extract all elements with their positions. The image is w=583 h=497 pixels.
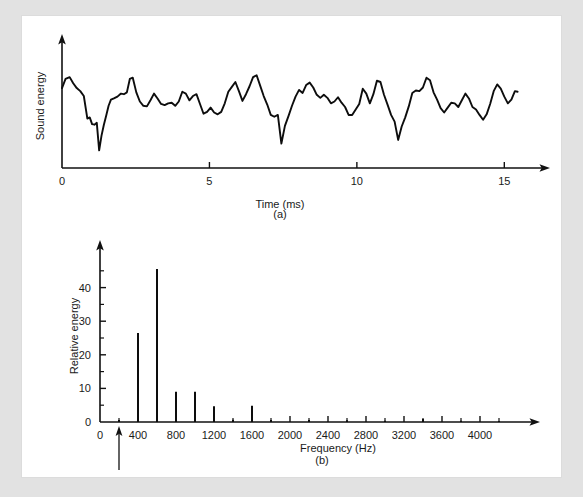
- spectrum-x-tick-label: 0: [97, 429, 103, 441]
- panel-b-label-area: (b): [22, 446, 561, 474]
- waveform-y-axis-label: Sound energy: [34, 71, 46, 140]
- spectrum-x-tick-label: 2400: [316, 429, 340, 441]
- spectrum-x-tick-label: 800: [167, 429, 185, 441]
- spectrum-x-tick-label: 1600: [240, 429, 264, 441]
- figure-outer-frame: 051015 Sound energy Time (ms) (a): [0, 0, 583, 497]
- waveform-x-tick-label: 0: [59, 175, 65, 187]
- panel-a-label: (a): [273, 208, 286, 220]
- panel-b-label: (b): [315, 454, 328, 466]
- spectrum-y-tick-label: 30: [79, 315, 91, 327]
- spectrum-x-axis: [100, 418, 540, 426]
- spectrum-x-tick-label: 1200: [202, 429, 226, 441]
- figure-page: 051015 Sound energy Time (ms) (a): [22, 16, 561, 477]
- spectrum-x-tick-label: 4000: [468, 429, 492, 441]
- waveform-x-tick-label: 10: [351, 175, 363, 187]
- harmonic-spectrum-chart: 010203040 040080012001600200024002800320…: [22, 224, 561, 474]
- waveform-x-tick-group: 051015: [59, 162, 510, 187]
- waveform-x-tick-label: 5: [206, 175, 212, 187]
- waveform-x-axis: [62, 164, 550, 172]
- spectrum-x-tick-label: 2800: [354, 429, 378, 441]
- waveform-x-tick-label: 15: [498, 175, 510, 187]
- spectrum-x-tick-label: 400: [129, 429, 147, 441]
- waveform-y-axis: [58, 34, 66, 168]
- sound-energy-waveform-chart: 051015 Sound energy Time (ms): [22, 16, 561, 221]
- spectrum-x-tick-label: 3200: [392, 429, 416, 441]
- spectrum-x-tick-label: 3600: [430, 429, 454, 441]
- spectrum-y-axis-label: Relative energy: [68, 297, 80, 374]
- panel-a-label-area: (a): [22, 202, 561, 224]
- spectrum-y-tick-label: 40: [79, 282, 91, 294]
- spectrum-y-axis: [96, 240, 104, 422]
- spectrum-x-tick-label: 2000: [278, 429, 302, 441]
- waveform-trace: [62, 75, 518, 150]
- spectrum-y-tick-label: 20: [79, 349, 91, 361]
- spectrum-bar-group: [119, 269, 499, 422]
- spectrum-y-tick-group: 010203040: [79, 271, 106, 428]
- spectrum-y-tick-label: 10: [79, 382, 91, 394]
- spectrum-y-tick-label: 0: [85, 416, 91, 428]
